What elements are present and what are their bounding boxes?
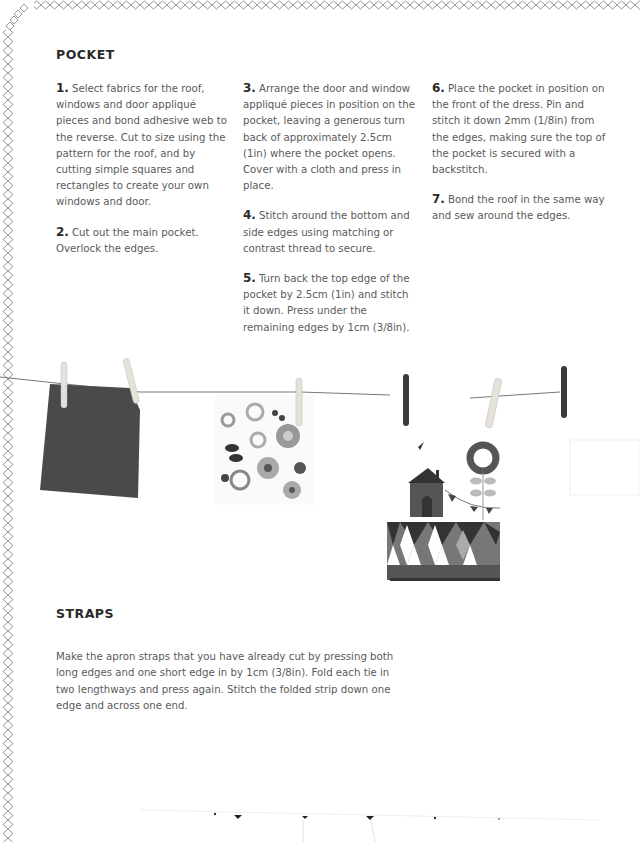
- straps-instructions: Make the apron straps that you have alre…: [56, 649, 406, 714]
- decorative-border-top: [14, 0, 640, 10]
- decorative-border-corner: [0, 0, 30, 30]
- dark-fabric-piece: [40, 384, 140, 498]
- step-1: 1.Select fabrics for the roof, windows a…: [56, 80, 231, 211]
- step-4: 4.Stitch around the bottom and side edge…: [243, 207, 418, 257]
- step-2: 2.Cut out the main pocket. Overlock the …: [56, 224, 231, 257]
- step-6: 6.Place the pocket in position on the fr…: [432, 80, 607, 178]
- step-3: 3.Arrange the door and window appliqué p…: [243, 80, 418, 194]
- decorative-bottom-line: [0, 800, 640, 842]
- house-applique-pocket: [387, 435, 500, 585]
- section-heading-pocket: POCKET: [56, 47, 115, 62]
- step-5: 5.Turn back the top edge of the pocket b…: [243, 270, 418, 336]
- instructions-column-1: 1.Select fabrics for the roof, windows a…: [56, 80, 231, 270]
- instructions-column-2: 3.Arrange the door and window appliqué p…: [243, 80, 418, 349]
- instructions-column-3: 6.Place the pocket in position on the fr…: [432, 80, 607, 238]
- section-heading-straps: STRAPS: [56, 606, 114, 621]
- step-7: 7.Bond the roof in the same way and sew …: [432, 191, 607, 224]
- washing-line-illustration: [0, 340, 640, 600]
